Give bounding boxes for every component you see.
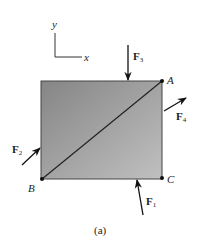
force-f2-arrow <box>22 148 40 165</box>
x-axis-label: x <box>83 51 89 63</box>
y-axis-label: y <box>51 18 57 30</box>
point-b-label: B <box>28 182 35 194</box>
coordinate-axes: y x <box>51 18 89 63</box>
rigid-body <box>41 81 162 179</box>
point-b-dot <box>40 177 44 181</box>
figure-caption: (a) <box>94 224 107 237</box>
point-a-label: A <box>166 74 174 86</box>
force-f1-label: F1 <box>146 195 157 209</box>
force-f4-label: F4 <box>176 110 187 124</box>
force-f1-arrow <box>137 180 143 215</box>
force-f2-label: F2 <box>12 143 23 157</box>
point-c-dot <box>160 176 164 180</box>
force-diagram: y x A B C F3 F4 F2 F1 (a) <box>0 0 199 251</box>
force-f3-label: F3 <box>133 50 144 64</box>
point-c-label: C <box>167 173 175 185</box>
point-a-dot <box>160 79 164 83</box>
